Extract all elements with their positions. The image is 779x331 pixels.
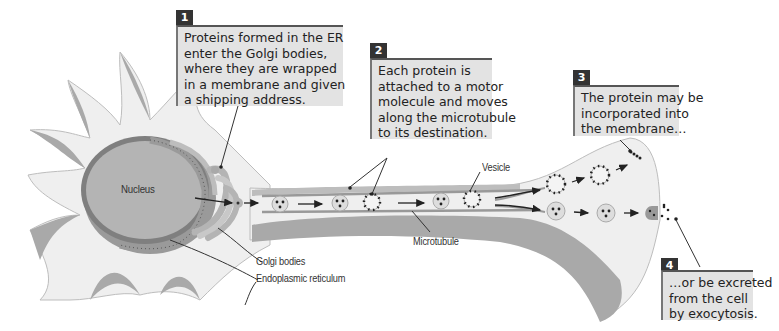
callout-line: a shipping address. [184,92,337,108]
callout-line: enter the Golgi bodies, [184,46,337,62]
callout-line: incorporated into [581,106,673,122]
vesicle-membrane-protein [464,191,480,207]
vesicle-filled [272,196,288,212]
golgi-bodies-label: Golgi bodies [256,255,305,267]
step-2-callout: Each protein is attached to a motor mole… [370,58,492,139]
callout-line: along the microtubule [378,110,486,126]
step-3-badge: 3 [573,70,590,85]
step-3-callout: The protein may be incorporated into the… [573,85,679,136]
callout-line: Each protein is [378,63,486,79]
callout-line: in a membrane and given [184,77,337,93]
vesicle-filled [332,195,348,211]
callout-line: The protein may be [581,90,673,106]
step-1-badge: 1 [176,10,193,25]
callout-line: molecule and moves [378,94,486,110]
vesicle-membrane-protein [364,194,380,210]
callout-line: …or be excreted [669,275,747,291]
nucleus-label: Nucleus [121,183,155,195]
vesicle-label: Vesicle [482,161,510,173]
callout-line: to its destination. [378,125,486,141]
callout-line: attached to a motor [378,79,486,95]
vesicle-filled [433,193,449,209]
step-1-callout: Proteins formed in the ER enter the Golg… [176,25,343,106]
microtubule-label: Microtubule [413,235,459,247]
endoplasmic-reticulum-label: Endoplasmic reticulum [256,272,345,284]
callout-line: from the cell [669,291,747,307]
step-4-callout: …or be excreted from the cell by exocyto… [661,270,753,320]
callout-line: Proteins formed in the ER [184,30,337,46]
callout-line: by exocytosis. [669,306,747,322]
step-2-badge: 2 [370,43,387,58]
callout-line: where they are wrapped [184,61,337,77]
callout-line: the membrane… [581,121,673,137]
